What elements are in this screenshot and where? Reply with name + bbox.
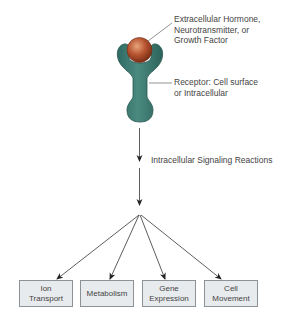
outcome-line1: Ion xyxy=(40,284,51,294)
outcome-box-ion-transport: Ion Transport xyxy=(19,280,73,307)
ligand-label: Extracellular Hormone, Neurotransmitter,… xyxy=(174,14,260,46)
receptor-label-line2: or Intracellular xyxy=(174,88,258,99)
outcome-line2: Movement xyxy=(212,294,249,304)
branch-arrows xyxy=(57,215,221,279)
outcome-line1: Cell xyxy=(224,284,238,294)
ligand-leader-line xyxy=(148,23,172,41)
outcome-line2: Transport xyxy=(29,294,63,304)
receptor-label: Receptor: Cell surface or Intracellular xyxy=(174,77,258,98)
outcome-line1: Gene xyxy=(159,284,179,294)
outcome-box-gene-expression: Gene Expression xyxy=(142,280,196,307)
outcome-box-cell-movement: Cell Movement xyxy=(204,280,258,307)
signaling-label: Intracellular Signaling Reactions xyxy=(151,155,272,166)
outcome-line2: Expression xyxy=(149,294,189,304)
outcome-line1: Metabolism xyxy=(87,289,128,299)
ligand-label-line1: Extracellular Hormone, xyxy=(174,14,260,25)
outcome-box-metabolism: Metabolism xyxy=(80,280,134,307)
receptor-label-line1: Receptor: Cell surface xyxy=(174,77,258,88)
ligand-label-line3: Growth Factor xyxy=(174,35,260,46)
ligand-label-line2: Neurotransmitter, or xyxy=(174,25,260,36)
